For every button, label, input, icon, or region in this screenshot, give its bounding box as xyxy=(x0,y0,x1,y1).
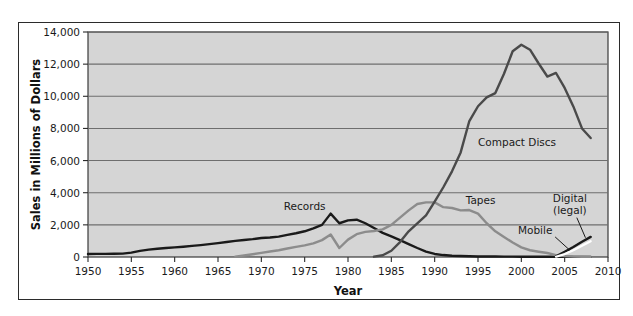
x-tick-label: 2000 xyxy=(508,265,535,277)
series-label-records: Records xyxy=(284,200,326,212)
y-tick-label: 14,000 xyxy=(43,26,80,38)
x-tick-label: 1995 xyxy=(465,265,492,277)
x-tick-label: 1965 xyxy=(205,265,232,277)
y-axis-title: Sales in Millions of Dollars xyxy=(29,59,43,231)
x-tick-label: 2010 xyxy=(595,265,622,277)
x-tick-label: 1980 xyxy=(335,265,362,277)
series-label-compact-discs: Compact Discs xyxy=(478,136,556,148)
x-tick-label: 1975 xyxy=(291,265,318,277)
y-tick-label: 6,000 xyxy=(50,155,80,167)
series-label-digital-legal: Digital(legal) xyxy=(553,192,587,216)
x-tick-label: 1985 xyxy=(378,265,405,277)
y-tick-label: 4,000 xyxy=(50,187,80,199)
y-tick-label: 8,000 xyxy=(50,122,80,134)
x-tick-label: 1950 xyxy=(75,265,102,277)
x-tick-label: 1990 xyxy=(421,265,448,277)
chart-figure: 02,0004,0006,0008,00010,00012,00014,0001… xyxy=(0,0,633,316)
y-tick-label: 0 xyxy=(73,251,80,263)
x-tick-label: 1955 xyxy=(118,265,145,277)
series-label-tapes: Tapes xyxy=(465,194,496,206)
y-tick-label: 2,000 xyxy=(50,219,80,231)
series-label-mobile: Mobile xyxy=(518,224,552,236)
x-axis-title: Year xyxy=(333,284,363,298)
line-chart: 02,0004,0006,0008,00010,00012,00014,0001… xyxy=(0,0,633,316)
x-tick-label: 2005 xyxy=(551,265,578,277)
y-tick-label: 10,000 xyxy=(43,90,80,102)
x-tick-label: 1960 xyxy=(161,265,188,277)
x-tick-label: 1970 xyxy=(248,265,275,277)
y-tick-label: 12,000 xyxy=(43,58,80,70)
